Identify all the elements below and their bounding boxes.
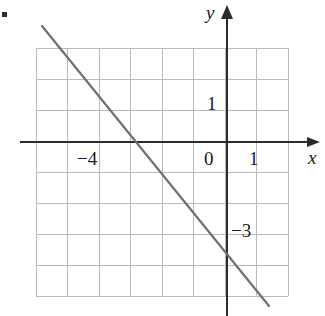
x-tick-label-negative-four: −4 (77, 149, 97, 168)
x-tick-label-one: 1 (249, 149, 259, 168)
x-axis-arrowhead (307, 137, 320, 147)
scan-artifact-dot-icon (2, 12, 7, 17)
axis-lines (20, 13, 311, 316)
y-axis-arrowhead (221, 5, 233, 19)
coordinate-plot-canvas (0, 0, 325, 316)
graph-figure: y x −4 1 0 1 −3 (0, 0, 325, 316)
x-axis-label: x (308, 148, 316, 167)
origin-label-zero: 0 (204, 149, 214, 168)
y-axis-label: y (206, 3, 214, 22)
y-tick-label-one: 1 (207, 94, 217, 113)
y-tick-label-negative-three: −3 (231, 221, 251, 240)
grid-lines (36, 48, 288, 296)
